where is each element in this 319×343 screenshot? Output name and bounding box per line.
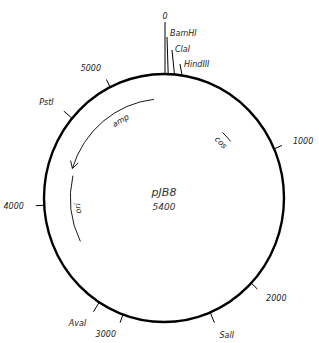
plasmid-name: pJB8 xyxy=(151,186,177,199)
site-sali-label: SalI xyxy=(219,331,234,340)
site-sali-line xyxy=(210,312,214,322)
tick-mark xyxy=(120,315,123,323)
plasmid-size: 5400 xyxy=(153,202,176,212)
tick-label: 4000 xyxy=(3,202,23,211)
plasmid-map: 010002000300040005000 BamHIClaIHindIIISa… xyxy=(0,0,319,343)
tick-label: 3000 xyxy=(96,330,116,339)
site-bamhi-line xyxy=(167,37,168,74)
site-avai-line xyxy=(93,302,99,311)
tick-mark xyxy=(106,79,110,87)
site-bamhi-label: BamHI xyxy=(170,29,197,38)
site-hindiii-line xyxy=(180,64,182,75)
tick-label: 2000 xyxy=(266,294,286,303)
feature-ori-label: ori xyxy=(73,202,83,214)
feature-amp-arc xyxy=(72,99,154,168)
site-avai-label: AvaI xyxy=(68,319,87,328)
tick-label: 5000 xyxy=(81,64,101,73)
tick-mark xyxy=(36,205,44,206)
site-clai-label: ClaI xyxy=(175,45,191,54)
tick-label: 0 xyxy=(162,12,167,21)
tick-mark xyxy=(251,283,257,289)
site-psti-label: PstI xyxy=(39,98,54,107)
tick-label: 1000 xyxy=(293,137,313,146)
feature-amp-label: amp xyxy=(111,112,131,129)
tick-mark xyxy=(274,145,282,148)
site-hindiii-label: HindIII xyxy=(184,60,210,69)
site-psti-line xyxy=(64,111,72,118)
